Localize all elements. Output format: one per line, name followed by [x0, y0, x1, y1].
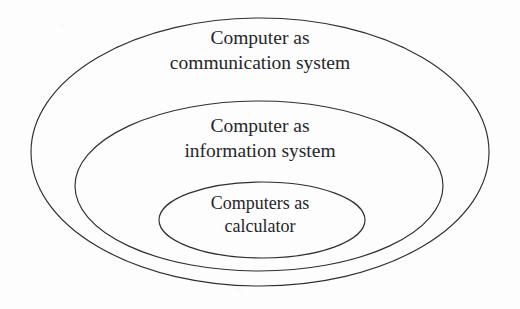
label-computer-as-information-system: Computer as information system — [0, 114, 520, 163]
diagram-canvas: Computer as communication system Compute… — [0, 0, 520, 309]
label-middle-line-2: information system — [0, 139, 520, 164]
label-computer-as-communication-system: Computer as communication system — [0, 26, 520, 75]
label-inner-line-1: Computers as — [0, 192, 520, 215]
label-middle-line-1: Computer as — [0, 114, 520, 139]
label-outer-line-1: Computer as — [0, 26, 520, 51]
label-outer-line-2: communication system — [0, 51, 520, 76]
label-computers-as-calculator: Computers as calculator — [0, 192, 520, 237]
label-inner-line-2: calculator — [0, 215, 520, 238]
